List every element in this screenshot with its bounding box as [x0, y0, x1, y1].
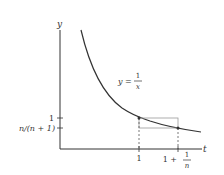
x-axis-label: t — [203, 144, 207, 154]
curve-label-denominator: x — [136, 83, 140, 91]
x-tick-label-fraction-numerator: 1 — [185, 151, 189, 159]
y-tick-label-1: 1 — [49, 114, 54, 123]
x-tick-label-1: 1 — [136, 154, 141, 163]
x-tick-label-1-plus-main: 1 + — [163, 155, 177, 164]
inverse-function-diagram: y t y = 1 x 1 n/(n + 1) 1 1 + 1 n — [0, 0, 224, 175]
point-at-1 — [138, 117, 141, 120]
curve-label-numerator: 1 — [136, 72, 140, 80]
curve-label-lhs: y = — [117, 77, 132, 86]
point-at-1-plus-1-over-n — [177, 127, 180, 130]
x-tick-label-fraction-denominator: n — [185, 162, 190, 170]
y-axis-label: y — [56, 19, 63, 29]
y-tick-label-n-over-n-plus-1: n/(n + 1) — [19, 124, 55, 133]
